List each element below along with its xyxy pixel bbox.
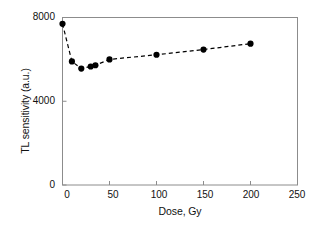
data-point <box>247 41 253 47</box>
plot-frame <box>63 18 298 186</box>
data-point <box>106 56 112 62</box>
chart-figure: TL sensitivity (a.u.) Dose, Gy 8000 4000… <box>0 0 325 230</box>
tick-marks <box>63 18 298 186</box>
data-point <box>200 46 206 52</box>
data-point <box>69 58 75 64</box>
data-point <box>59 21 65 27</box>
plot-area <box>0 0 325 230</box>
data-point <box>92 62 98 68</box>
data-point <box>78 65 84 71</box>
data-point <box>153 52 159 58</box>
data-line <box>63 24 251 69</box>
data-points <box>59 21 253 72</box>
